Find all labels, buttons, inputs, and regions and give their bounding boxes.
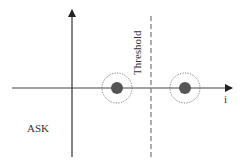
threshold-label: Threshold — [131, 30, 143, 75]
ask-label: ASK — [27, 122, 49, 134]
ask-threshold-diagram: Threshold ASK i — [0, 0, 240, 166]
symbol-dot-1 — [179, 82, 191, 94]
symbol-dot-0 — [111, 82, 123, 94]
i-axis-label: i — [224, 93, 227, 105]
diagram-canvas: Threshold ASK i — [0, 0, 240, 166]
